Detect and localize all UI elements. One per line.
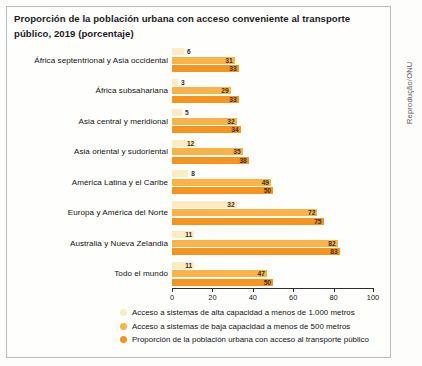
- bar: 12: [172, 140, 196, 147]
- bar-value-label: 32: [227, 118, 234, 125]
- axis-tick-label: 0: [170, 293, 174, 302]
- bar: 35: [172, 148, 243, 155]
- bar-group: 123538: [172, 140, 374, 164]
- bar-group: 32933: [172, 79, 374, 103]
- bar-value-label: 29: [221, 87, 228, 94]
- bar-value-label: 50: [264, 279, 271, 286]
- bar: 50: [172, 279, 273, 286]
- legend-item: Proporción de la población urbana con ac…: [120, 333, 390, 346]
- bar-group: 84950: [172, 170, 374, 194]
- axis-tick: [172, 288, 173, 292]
- bar-value-label: 12: [187, 140, 194, 147]
- bar-group: 118283: [172, 231, 374, 255]
- bar: 82: [172, 240, 338, 247]
- bar: 5: [172, 109, 182, 116]
- chart-legend: Acceso a sistemas de alta capacidad a me…: [120, 306, 390, 346]
- bar-value-label: 35: [233, 148, 240, 155]
- category-label: Asia oriental y sudoriental: [14, 147, 168, 156]
- legend-item: Acceso a sistemas de baja capacidad a me…: [120, 319, 390, 332]
- bar-value-label: 8: [191, 170, 195, 177]
- bar: 83: [172, 248, 340, 255]
- axis-tick-label: 60: [289, 293, 297, 302]
- category-label: Europa y América del Norte: [14, 208, 168, 217]
- bar-group: 53234: [172, 109, 374, 133]
- bar-group: 114750: [172, 262, 374, 286]
- bar: 11: [172, 231, 194, 238]
- bar-value-label: 11: [185, 262, 192, 269]
- bar-value-label: 32: [227, 201, 234, 208]
- axis-tick-label: 100: [367, 293, 379, 302]
- bar: 75: [172, 218, 324, 225]
- legend-label: Acceso a sistemas de alta capacidad a me…: [132, 308, 355, 317]
- bar: 31: [172, 57, 235, 64]
- axis-tick-label: 20: [208, 293, 216, 302]
- bar: 47: [172, 270, 267, 277]
- legend-swatch-icon: [120, 336, 127, 343]
- axis-tick: [212, 288, 213, 292]
- bar: 38: [172, 157, 249, 164]
- bars-area: 6313332933532341235388495032727511828311…: [172, 44, 374, 288]
- axis-line: [172, 288, 374, 289]
- bar-value-label: 49: [262, 179, 269, 186]
- bar: 32: [172, 118, 237, 125]
- category-label: América Latina y el Caribe: [14, 178, 168, 187]
- chart-screenshot: Reprodução/ONU Proporción de la població…: [0, 0, 422, 366]
- bar-value-label: 83: [330, 248, 337, 255]
- bar-value-label: 6: [187, 48, 191, 55]
- axis-tick-label: 80: [329, 293, 337, 302]
- bar-group: 63133: [172, 48, 374, 72]
- category-labels: África septentrional y Asia occidentalÁf…: [14, 44, 172, 288]
- category-label: Asia central y meridional: [14, 117, 168, 126]
- bar: 33: [172, 65, 239, 72]
- axis-tick: [293, 288, 294, 292]
- legend-label: Acceso a sistemas de baja capacidad a me…: [132, 322, 350, 331]
- bar-value-label: 38: [239, 157, 246, 164]
- bar: 6: [172, 48, 184, 55]
- credit-label: Reprodução/ONU: [399, 4, 421, 124]
- axis-tick: [253, 288, 254, 292]
- bar-value-label: 34: [231, 126, 238, 133]
- chart-title: Proporción de la población urbana con ac…: [14, 12, 374, 41]
- bar: 33: [172, 96, 239, 103]
- bar-value-label: 72: [308, 209, 315, 216]
- category-label: Australia y Nueva Zelandia: [14, 239, 168, 248]
- axis-tick: [334, 288, 335, 292]
- bar-group: 327275: [172, 201, 374, 225]
- bar-value-label: 3: [181, 79, 185, 86]
- bar: 29: [172, 87, 231, 94]
- bar: 49: [172, 179, 271, 186]
- bar: 3: [172, 79, 178, 86]
- bar: 34: [172, 126, 241, 133]
- bar: 50: [172, 187, 273, 194]
- bar: 32: [172, 201, 237, 208]
- legend-item: Acceso a sistemas de alta capacidad a me…: [120, 306, 390, 319]
- axis-tick: [373, 288, 374, 292]
- axis-tick-label: 40: [249, 293, 257, 302]
- bar: 11: [172, 262, 194, 269]
- bar-value-label: 33: [229, 65, 236, 72]
- category-label: Todo el mundo: [14, 269, 168, 278]
- category-label: África septentrional y Asia occidental: [14, 56, 168, 65]
- bar-value-label: 82: [328, 240, 335, 247]
- bar-value-label: 47: [258, 270, 265, 277]
- legend-label: Proporción de la población urbana con ac…: [132, 335, 369, 344]
- plot-area: África septentrional y Asia occidentalÁf…: [14, 44, 374, 294]
- bar-value-label: 33: [229, 96, 236, 103]
- legend-swatch-icon: [120, 309, 127, 316]
- category-label: África subsahariana: [14, 86, 168, 95]
- bar-value-label: 5: [185, 109, 189, 116]
- bar-value-label: 31: [225, 57, 232, 64]
- bar-value-label: 50: [264, 187, 271, 194]
- bar-value-label: 75: [314, 218, 321, 225]
- legend-swatch-icon: [120, 323, 127, 330]
- bar-value-label: 11: [185, 231, 192, 238]
- bar: 8: [172, 170, 188, 177]
- bar: 72: [172, 209, 317, 216]
